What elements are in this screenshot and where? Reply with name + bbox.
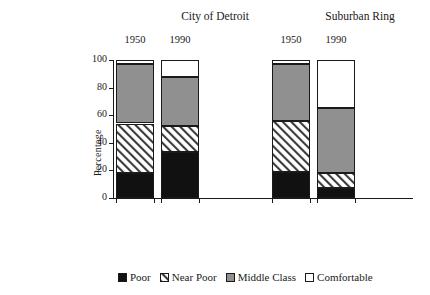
bar-segment-near-poor[interactable] xyxy=(161,126,199,152)
y-tick-label: 60 xyxy=(71,108,107,119)
legend-label: Poor xyxy=(130,271,151,283)
legend-swatch-icon xyxy=(226,273,235,282)
x-tick-mark xyxy=(199,199,200,203)
y-tick-label: 100 xyxy=(71,53,107,64)
legend-item-near-poor[interactable]: Near Poor xyxy=(160,271,217,283)
stacked-bar[interactable] xyxy=(272,60,310,198)
bar-segment-near-poor[interactable] xyxy=(317,173,355,188)
y-tick-mark xyxy=(109,115,113,116)
bar-segment-poor[interactable] xyxy=(116,173,154,198)
x-tick-mark xyxy=(154,199,155,203)
stacked-bar[interactable] xyxy=(317,60,355,198)
y-tick-label: 20 xyxy=(71,163,107,174)
legend-item-comfortable[interactable]: Comfortable xyxy=(305,271,373,283)
x-axis-line xyxy=(113,198,413,199)
bar-segment-poor[interactable] xyxy=(317,188,355,198)
bar-segment-middle-class[interactable] xyxy=(272,64,310,121)
legend-swatch-icon xyxy=(160,273,169,282)
bar-segment-poor[interactable] xyxy=(272,172,310,198)
x-tick-mark xyxy=(116,199,117,203)
stacked-bar[interactable] xyxy=(161,60,199,198)
y-tick-label: 0 xyxy=(71,191,107,202)
y-axis-line xyxy=(113,60,114,199)
data-table: Median Family Income$25,125$24,262$25,79… xyxy=(0,205,430,265)
y-tick-mark xyxy=(109,198,113,199)
legend-item-middle-class[interactable]: Middle Class xyxy=(226,271,296,283)
x-tick-mark xyxy=(355,199,356,203)
y-tick-mark xyxy=(109,88,113,89)
bar-segment-poor[interactable] xyxy=(161,152,199,198)
x-tick-mark xyxy=(317,199,318,203)
bar-segment-comfortable[interactable] xyxy=(161,60,199,77)
y-tick-mark xyxy=(109,170,113,171)
y-tick-mark xyxy=(109,60,113,61)
bar-segment-middle-class[interactable] xyxy=(161,77,199,127)
bar-segment-comfortable[interactable] xyxy=(116,60,154,64)
legend-label: Near Poor xyxy=(172,271,217,283)
legend-swatch-icon xyxy=(305,273,314,282)
y-tick-mark xyxy=(109,143,113,144)
legend-label: Middle Class xyxy=(238,271,296,283)
x-tick-mark xyxy=(272,199,273,203)
bar-segment-near-poor[interactable] xyxy=(116,124,154,174)
bar-segment-comfortable[interactable] xyxy=(272,60,310,64)
bar-segment-comfortable[interactable] xyxy=(317,60,355,108)
chart-figure: City of Detroit Suburban Ring 1950 1990 … xyxy=(0,0,430,295)
plot-area: 100806040200 xyxy=(0,0,430,210)
stacked-bar[interactable] xyxy=(116,60,154,198)
bar-segment-middle-class[interactable] xyxy=(317,108,355,173)
bar-segment-middle-class[interactable] xyxy=(116,64,154,123)
legend-item-poor[interactable]: Poor xyxy=(118,271,151,283)
y-tick-label: 80 xyxy=(71,81,107,92)
x-tick-mark xyxy=(161,199,162,203)
bar-segment-near-poor[interactable] xyxy=(272,121,310,172)
chart-legend: PoorNear PoorMiddle ClassComfortable xyxy=(118,271,373,283)
legend-label: Comfortable xyxy=(317,271,373,283)
y-tick-label: 40 xyxy=(71,136,107,147)
x-tick-mark xyxy=(310,199,311,203)
legend-swatch-icon xyxy=(118,273,127,282)
